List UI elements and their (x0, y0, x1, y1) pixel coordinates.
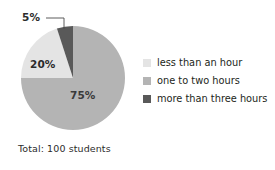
pie-chart-figure: 5% 20% 75% Total: 100 students less than… (0, 0, 275, 170)
legend-label-less-than-an-hour: less than an hour (157, 57, 242, 68)
legend-swatch-icon-one-to-two-hours (143, 77, 151, 85)
legend-label-more-than-three-hours: more than three hours (157, 93, 267, 104)
legend-swatch-icon-more-than-three-hours (143, 95, 151, 103)
legend-label-one-to-two-hours: one to two hours (157, 75, 240, 86)
legend-item-one-to-two-hours: one to two hours (143, 72, 275, 89)
slice-value-label-less-than-an-hour: 20% (30, 58, 55, 70)
legend-swatch-icon-less-than-an-hour (143, 59, 151, 67)
slice-value-label-one-to-two-hours: 75% (70, 89, 95, 101)
legend-item-less-than-an-hour: less than an hour (143, 54, 275, 71)
slice-value-label-more-than-three-hours: 5% (22, 11, 40, 23)
chart-legend: less than an hour one to two hours more … (143, 54, 275, 108)
pie-svg (0, 0, 140, 140)
chart-caption: Total: 100 students (18, 143, 111, 154)
legend-item-more-than-three-hours: more than three hours (143, 90, 275, 107)
pie-plot-area: 5% 20% 75% Total: 100 students (0, 0, 140, 170)
